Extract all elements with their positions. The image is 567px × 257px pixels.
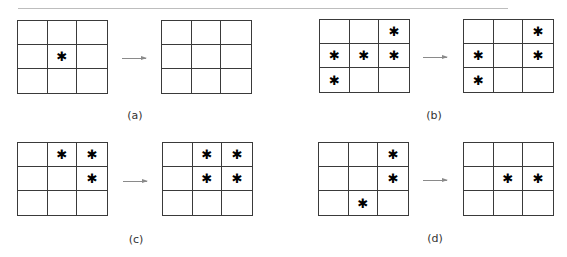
- grid-cell: [319, 143, 349, 167]
- grid-cell: [162, 69, 192, 93]
- grid-cell: [18, 191, 48, 215]
- grid-cell: ✱: [379, 44, 409, 68]
- grid-cell: [193, 191, 223, 215]
- asterisk-icon: ✱: [232, 172, 243, 185]
- panel-b-after-grid: ✱✱✱✱: [463, 19, 554, 93]
- asterisk-icon: ✱: [202, 148, 213, 161]
- grid-cell: [48, 167, 78, 191]
- panel-d-before-grid: ✱✱✱: [318, 142, 409, 216]
- grid-cell: [350, 68, 380, 92]
- asterisk-icon: ✱: [533, 49, 544, 62]
- grid-cell: ✱: [378, 167, 408, 191]
- grid-cell: [77, 69, 107, 93]
- grid-cell: ✱: [320, 44, 350, 68]
- asterisk-icon: ✱: [533, 25, 544, 38]
- grid-cell: [349, 167, 379, 191]
- grid-cell: ✱: [222, 167, 252, 191]
- asterisk-icon: ✱: [57, 50, 68, 63]
- grid-cell: [494, 68, 524, 92]
- panel-b-arrow-icon: [423, 57, 447, 58]
- asterisk-icon: ✱: [358, 197, 369, 210]
- grid-cell: [163, 167, 193, 191]
- grid-cell: [464, 143, 494, 167]
- panel-c-label: (c): [121, 233, 151, 246]
- grid-cell: [523, 143, 553, 167]
- grid-cell: [319, 191, 349, 215]
- panel-a-arrow-icon: [122, 58, 146, 59]
- asterisk-icon: ✱: [473, 49, 484, 62]
- grid-cell: [18, 143, 48, 167]
- asterisk-icon: ✱: [57, 148, 68, 161]
- grid-cell: ✱: [48, 45, 78, 69]
- grid-cell: [221, 45, 251, 69]
- grid-cell: [77, 21, 107, 45]
- grid-cell: ✱: [523, 20, 553, 44]
- asterisk-icon: ✱: [329, 49, 340, 62]
- panel-c-before-grid: ✱✱✱: [17, 142, 108, 216]
- grid-cell: ✱: [523, 44, 553, 68]
- grid-cell: ✱: [320, 68, 350, 92]
- asterisk-icon: ✱: [533, 172, 544, 185]
- grid-cell: ✱: [464, 44, 494, 68]
- grid-cell: [162, 21, 192, 45]
- grid-cell: [48, 191, 78, 215]
- asterisk-icon: ✱: [473, 74, 484, 87]
- grid-cell: [379, 68, 409, 92]
- grid-cell: [494, 191, 524, 215]
- panel-c-after-grid: ✱✱✱✱: [162, 142, 253, 216]
- panel-d-label: (d): [420, 232, 450, 245]
- panel-a-before-grid: ✱: [17, 20, 108, 94]
- asterisk-icon: ✱: [329, 74, 340, 87]
- grid-cell: [464, 167, 494, 191]
- grid-cell: [523, 191, 553, 215]
- grid-cell: ✱: [193, 167, 223, 191]
- panel-b-before-grid: ✱✱✱✱✱: [319, 19, 410, 93]
- grid-cell: [222, 191, 252, 215]
- asterisk-icon: ✱: [503, 172, 514, 185]
- grid-cell: [163, 143, 193, 167]
- grid-cell: [192, 69, 222, 93]
- grid-cell: [350, 20, 380, 44]
- grid-cell: ✱: [494, 167, 524, 191]
- panel-a-label: (a): [120, 109, 150, 122]
- grid-cell: ✱: [77, 167, 107, 191]
- grid-cell: ✱: [350, 44, 380, 68]
- grid-cell: [192, 21, 222, 45]
- grid-cell: [320, 20, 350, 44]
- grid-cell: [77, 191, 107, 215]
- grid-cell: [18, 167, 48, 191]
- grid-cell: [523, 68, 553, 92]
- grid-cell: ✱: [378, 143, 408, 167]
- grid-cell: [494, 44, 524, 68]
- grid-cell: [464, 20, 494, 44]
- grid-cell: [494, 143, 524, 167]
- grid-cell: [378, 191, 408, 215]
- grid-cell: [349, 143, 379, 167]
- grid-cell: [163, 191, 193, 215]
- grid-cell: [18, 45, 48, 69]
- grid-cell: ✱: [349, 191, 379, 215]
- panel-b-label: (b): [419, 109, 449, 122]
- grid-cell: [48, 69, 78, 93]
- grid-cell: [319, 167, 349, 191]
- grid-cell: [494, 20, 524, 44]
- panel-d-arrow-icon: [423, 180, 447, 181]
- grid-cell: ✱: [222, 143, 252, 167]
- asterisk-icon: ✱: [87, 148, 98, 161]
- asterisk-icon: ✱: [87, 172, 98, 185]
- asterisk-icon: ✱: [388, 148, 399, 161]
- grid-cell: [77, 45, 107, 69]
- asterisk-icon: ✱: [389, 25, 400, 38]
- grid-cell: ✱: [379, 20, 409, 44]
- grid-cell: [48, 21, 78, 45]
- grid-cell: [192, 45, 222, 69]
- panel-d-after-grid: ✱✱: [463, 142, 554, 216]
- grid-cell: ✱: [464, 68, 494, 92]
- top-rule: [18, 8, 508, 9]
- asterisk-icon: ✱: [389, 49, 400, 62]
- asterisk-icon: ✱: [388, 172, 399, 185]
- grid-cell: [221, 21, 251, 45]
- grid-cell: ✱: [523, 167, 553, 191]
- grid-cell: ✱: [48, 143, 78, 167]
- grid-cell: [464, 191, 494, 215]
